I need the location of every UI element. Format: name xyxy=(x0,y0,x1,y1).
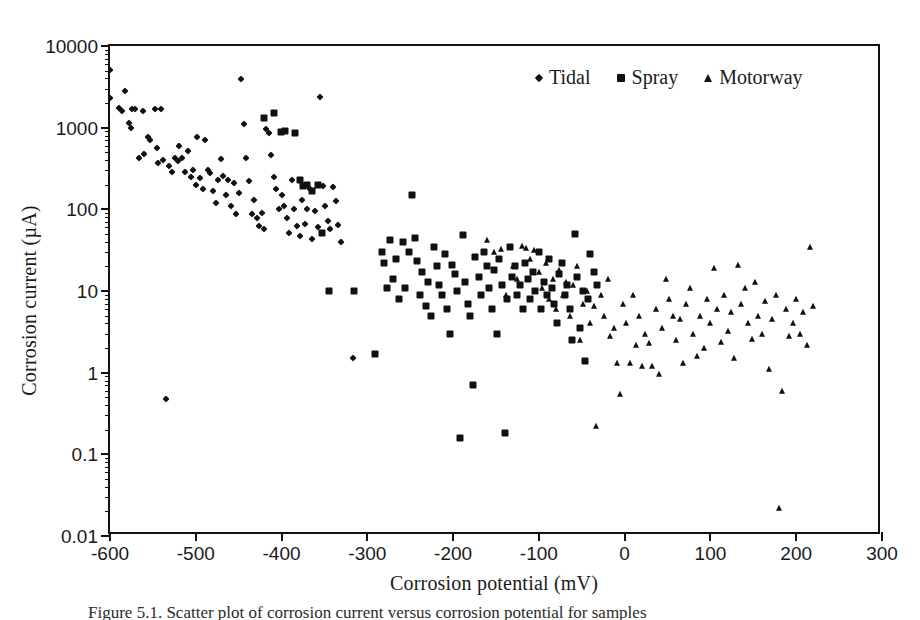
data-point-motorway xyxy=(783,306,789,312)
data-point-tidal xyxy=(296,233,303,240)
data-point-spray xyxy=(381,260,388,267)
y-tick-major xyxy=(101,453,110,455)
data-point-spray xyxy=(387,237,394,244)
data-point-motorway xyxy=(670,312,676,318)
data-point-tidal xyxy=(286,229,293,236)
data-point-motorway xyxy=(810,303,816,309)
y-tick-label: 10 xyxy=(77,282,98,301)
data-point-spray xyxy=(469,382,476,389)
data-point-tidal xyxy=(147,137,154,144)
x-tick-major xyxy=(109,532,111,541)
data-point-spray xyxy=(446,330,453,337)
data-point-spray xyxy=(270,110,277,117)
data-point-motorway xyxy=(725,328,731,334)
data-point-tidal xyxy=(332,198,339,205)
data-point-spray xyxy=(574,273,581,280)
legend-entry-spray: Spray xyxy=(617,66,679,89)
data-point-motorway xyxy=(639,363,645,369)
data-point-motorway xyxy=(546,296,552,302)
data-point-spray xyxy=(390,276,397,283)
data-point-motorway xyxy=(630,291,636,297)
data-point-motorway xyxy=(633,341,639,347)
data-point-spray xyxy=(467,312,474,319)
data-point-motorway xyxy=(731,355,737,361)
y-axis-title: Corrosion current (µA) xyxy=(18,86,41,516)
data-point-motorway xyxy=(728,309,734,315)
y-tick-label: 10000 xyxy=(45,37,98,56)
data-point-motorway xyxy=(598,291,604,297)
data-point-spray xyxy=(496,255,503,262)
data-point-spray xyxy=(411,234,418,241)
data-point-spray xyxy=(441,251,448,258)
data-point-motorway xyxy=(759,330,765,336)
data-point-motorway xyxy=(607,333,613,339)
data-point-spray xyxy=(384,284,391,291)
data-point-motorway xyxy=(745,320,751,326)
data-point-motorway xyxy=(503,291,509,297)
data-point-spray xyxy=(506,243,513,250)
data-point-motorway xyxy=(677,316,683,322)
y-tick-major xyxy=(101,127,110,129)
data-point-tidal xyxy=(212,199,219,206)
y-tick-major xyxy=(101,45,110,47)
x-tick-label: 200 xyxy=(780,544,812,563)
data-point-motorway xyxy=(580,300,586,306)
x-tick-label: -600 xyxy=(91,544,129,563)
data-point-tidal xyxy=(233,210,240,217)
diamond-marker-icon xyxy=(535,73,543,81)
scatter-plot-figure: Corrosion current (µA) 0.010.11101001000… xyxy=(0,0,920,620)
data-point-tidal xyxy=(329,183,336,190)
data-point-tidal xyxy=(317,93,324,100)
data-point-spray xyxy=(538,306,545,313)
x-tick-label: -500 xyxy=(177,544,215,563)
data-point-spray xyxy=(594,281,601,288)
data-point-motorway xyxy=(656,371,662,377)
data-point-spray xyxy=(325,288,332,295)
figure-caption: Figure 5.1. Scatter plot of corrosion cu… xyxy=(88,602,868,620)
data-point-tidal xyxy=(253,215,260,222)
data-point-spray xyxy=(261,115,268,122)
data-point-tidal xyxy=(118,107,125,114)
data-point-motorway xyxy=(659,325,665,331)
y-tick-label: 1 xyxy=(87,363,98,382)
data-point-tidal xyxy=(309,236,316,243)
data-point-tidal xyxy=(293,223,300,230)
data-point-spray xyxy=(392,255,399,262)
data-point-motorway xyxy=(587,320,593,326)
x-tick-major xyxy=(366,532,368,541)
x-tick-label: -200 xyxy=(434,544,472,563)
data-point-motorway xyxy=(642,330,648,336)
data-point-tidal xyxy=(245,177,252,184)
data-point-tidal xyxy=(230,179,237,186)
data-point-tidal xyxy=(235,189,242,196)
data-point-motorway xyxy=(707,320,713,326)
data-point-spray xyxy=(456,434,463,441)
data-point-motorway xyxy=(680,360,686,366)
data-point-motorway xyxy=(605,276,611,282)
data-point-spray xyxy=(493,330,500,337)
data-point-tidal xyxy=(141,150,148,157)
data-point-spray xyxy=(527,295,534,302)
data-point-motorway xyxy=(498,245,504,251)
data-point-tidal xyxy=(238,76,245,83)
data-point-motorway xyxy=(742,284,748,290)
data-point-tidal xyxy=(192,181,199,188)
data-point-spray xyxy=(454,288,461,295)
data-point-spray xyxy=(451,271,458,278)
data-point-motorway xyxy=(536,269,542,275)
data-point-tidal xyxy=(185,147,192,154)
data-point-tidal xyxy=(251,196,258,203)
data-point-tidal xyxy=(270,173,277,180)
data-point-motorway xyxy=(550,276,556,282)
data-point-motorway xyxy=(701,345,707,351)
data-point-spray xyxy=(459,232,466,239)
legend-entry-motorway: Motorway xyxy=(704,66,802,89)
data-point-motorway xyxy=(649,363,655,369)
data-point-spray xyxy=(464,300,471,307)
data-point-spray xyxy=(462,278,469,285)
triangle-marker-icon xyxy=(704,74,712,82)
chart-legend: TidalSprayMotorway xyxy=(536,66,803,89)
data-point-spray xyxy=(488,306,495,313)
data-point-tidal xyxy=(127,125,134,132)
y-tick-label: 100 xyxy=(66,200,98,219)
